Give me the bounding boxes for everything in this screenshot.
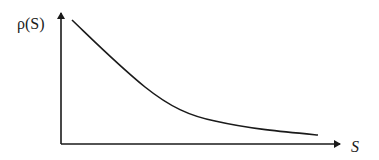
- y-axis-label: ρ(S): [17, 16, 45, 32]
- diagram-canvas: [0, 0, 379, 160]
- x-axis-label: S: [351, 139, 359, 155]
- density-curve: [72, 20, 318, 135]
